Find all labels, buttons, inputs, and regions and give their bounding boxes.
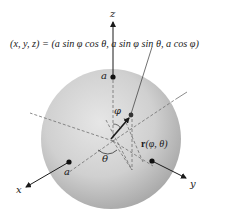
dashed-axis-tail <box>176 92 187 99</box>
x-intercept-point <box>66 159 71 164</box>
y-axis-label: y <box>189 178 196 189</box>
vector-label-args: (φ, θ) <box>145 138 168 150</box>
y-intercept-point <box>149 158 154 163</box>
theta-label: θ <box>102 153 108 164</box>
top-point <box>110 74 115 79</box>
parametric-equation: (x, y, z) = (a sin φ cos θ, a sin φ sin … <box>10 38 199 50</box>
vector-label: r(φ, θ) <box>141 138 168 150</box>
top-point-label: a <box>101 70 107 81</box>
x-intercept-label: a <box>64 166 70 177</box>
x-axis-label: x <box>16 184 22 195</box>
phi-label: φ <box>114 105 121 116</box>
sphere-diagram: z x y a a φ θ r(φ, θ) (x, y, z) = (a sin… <box>0 0 227 218</box>
z-axis-label: z <box>109 8 116 19</box>
